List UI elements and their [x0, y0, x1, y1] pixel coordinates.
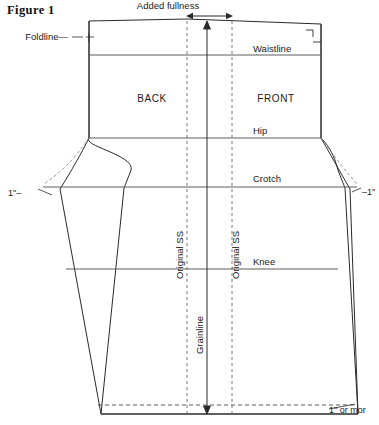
original-ss-left-label: Original SS [174, 231, 185, 279]
grainline-label: Grainline [194, 316, 205, 354]
added-fullness-arrow-right [226, 13, 233, 19]
grainline-arrow-top [204, 21, 211, 29]
left-inch-label: 1"– [8, 188, 21, 198]
left-crotch-curve [60, 138, 89, 189]
hip-label: Hip [253, 125, 267, 136]
right-inch-leader [352, 188, 361, 192]
pattern-outline [88, 19, 358, 414]
front-section-label: FRONT [257, 93, 294, 104]
pattern-diagram: Added fullness Foldline— Waistline BACK … [0, 0, 379, 425]
added-fullness-arrow-left [186, 13, 193, 19]
left-original-crotch-dashed [44, 138, 89, 184]
right-crotch-curve [321, 138, 350, 189]
grainline-arrow-bottom [204, 406, 211, 414]
figure-container: Figure 1 [0, 0, 379, 425]
waistline-label: Waistline [253, 43, 291, 54]
back-section-label: BACK [137, 93, 167, 104]
right-angle-symbol [306, 30, 313, 37]
original-ss-right-label: Original SS [230, 231, 241, 279]
left-inch-leader [38, 189, 52, 195]
foldline-label: Foldline— [25, 31, 68, 42]
added-fullness-label: Added fullness [137, 0, 200, 11]
crotch-label: Crotch [253, 173, 281, 184]
right-inch-label: –1" [362, 187, 375, 197]
left-outseam [60, 189, 101, 414]
knee-label: Knee [253, 256, 275, 267]
hem-note-label: 1" or mor [329, 405, 366, 415]
